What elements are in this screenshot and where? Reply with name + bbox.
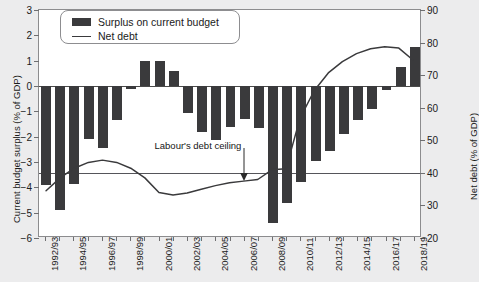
x-axis-tick — [357, 237, 358, 241]
x-axis-tick-label: 1994/95 — [77, 237, 88, 271]
x-axis-tick-label: 1998/99 — [134, 237, 145, 271]
x-axis-tick — [230, 237, 231, 241]
x-axis-tick — [286, 237, 287, 241]
x-axis-tick — [116, 237, 117, 241]
x-axis-tick — [329, 237, 330, 241]
x-axis-tick-label: 2002/03 — [191, 237, 202, 271]
x-axis-tick — [386, 237, 387, 241]
x-axis-tick-label: 1996/97 — [106, 237, 117, 271]
x-axis-tick — [201, 237, 202, 241]
x-axis-tick-label: 2018/19 — [418, 237, 429, 271]
x-axis-labels: 1992/931994/951996/971998/992000/012002/… — [0, 0, 479, 282]
x-axis-tick-label: 2016/17 — [390, 237, 401, 271]
x-axis-tick — [315, 237, 316, 241]
x-axis-tick — [45, 237, 46, 241]
x-axis-tick-label: 2014/15 — [361, 237, 372, 271]
x-axis-tick — [215, 237, 216, 241]
x-axis-tick-label: 2000/01 — [163, 237, 174, 271]
chart-figure: 3210−1−2−3−4−5−6 9080706050403020 Curren… — [0, 0, 479, 282]
x-axis-tick — [88, 237, 89, 241]
x-axis-tick — [144, 237, 145, 241]
x-axis-tick — [414, 237, 415, 241]
x-axis-tick — [371, 237, 372, 241]
x-axis-tick — [73, 237, 74, 241]
x-axis-tick — [102, 237, 103, 241]
x-axis-tick-label: 2012/13 — [333, 237, 344, 271]
x-axis-tick — [258, 237, 259, 241]
x-axis-tick — [59, 237, 60, 241]
x-axis-tick-label: 2008/09 — [276, 237, 287, 271]
x-axis-tick — [159, 237, 160, 241]
x-axis-tick — [300, 237, 301, 241]
x-axis-tick — [173, 237, 174, 241]
x-axis-tick — [130, 237, 131, 241]
x-axis-tick — [400, 237, 401, 241]
x-axis-tick-label: 1992/93 — [49, 237, 60, 271]
x-axis-tick-label: 2006/07 — [248, 237, 259, 271]
x-axis-tick — [187, 237, 188, 241]
x-axis-tick — [244, 237, 245, 241]
x-axis-tick-label: 2004/05 — [219, 237, 230, 271]
x-axis-tick — [343, 237, 344, 241]
x-axis-tick — [272, 237, 273, 241]
x-axis-tick-label: 2010/11 — [304, 237, 315, 271]
